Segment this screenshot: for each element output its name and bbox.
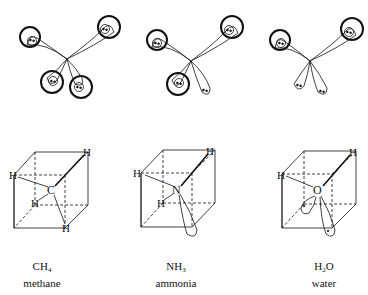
name-water: water xyxy=(284,277,364,290)
central-atom-o: O xyxy=(313,183,322,197)
ammonia-orbitals xyxy=(147,16,243,95)
h-atom: H xyxy=(206,145,214,157)
formula-methane: CH4 xyxy=(2,260,82,277)
orbital-diagram: C H H H H N H H H O H H xyxy=(0,0,368,295)
central-atom-n: N xyxy=(172,183,181,197)
h-atom: H xyxy=(133,167,141,179)
caption-ammonia: NH3 ammonia xyxy=(136,260,216,290)
name-ammonia: ammonia xyxy=(136,277,216,290)
formula-water: H2O xyxy=(284,260,364,277)
name-methane: methane xyxy=(2,277,82,290)
methane-orbitals xyxy=(20,16,120,98)
h-atom: H xyxy=(9,169,17,181)
h-atom: H xyxy=(62,222,70,234)
caption-water: H2O water xyxy=(284,260,364,290)
h-atom: H xyxy=(31,197,39,209)
formula-ammonia: NH3 xyxy=(136,260,216,277)
h-atom: H xyxy=(349,146,357,158)
h-atom: H xyxy=(157,197,165,209)
h-atom: H xyxy=(277,169,285,181)
water-orbitals xyxy=(270,18,363,94)
caption-methane: CH4 methane xyxy=(2,260,82,290)
central-atom-c: C xyxy=(47,183,55,197)
h-atom: H xyxy=(83,146,91,158)
